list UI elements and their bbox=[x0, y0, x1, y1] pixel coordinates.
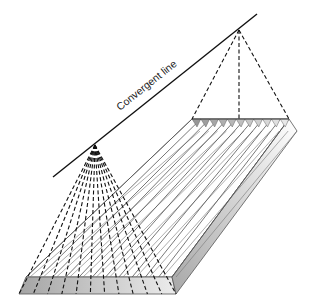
far-convergence-rays bbox=[192, 30, 289, 119]
convergent-line-diagram: Convergent line bbox=[0, 0, 312, 299]
far-ray bbox=[192, 30, 239, 119]
far-ray bbox=[239, 30, 289, 119]
slab-top-face bbox=[26, 119, 289, 277]
slab-front-face bbox=[19, 277, 176, 294]
